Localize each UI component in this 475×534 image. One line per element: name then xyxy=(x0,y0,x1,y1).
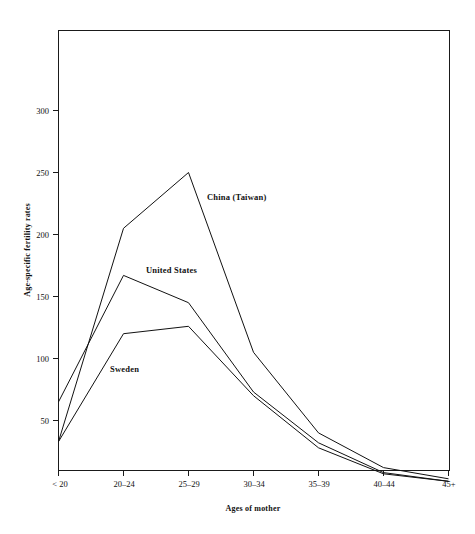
x-tick-label-35-39: 35–39 xyxy=(308,479,329,489)
y-tick-label-200: 200 xyxy=(36,230,49,240)
x-tick-label-lt20: < 20 xyxy=(52,479,67,489)
series-label-united-states: United States xyxy=(146,265,197,275)
fertility-rate-chart: 300 250 200 150 100 50 < 20 20–24 25–29 … xyxy=(0,0,475,534)
y-axis-ticks xyxy=(53,111,59,421)
series-line-united-states xyxy=(59,275,449,481)
y-tick-label-150: 150 xyxy=(36,292,49,302)
series-label-sweden: Sweden xyxy=(110,364,139,374)
series-line-china xyxy=(59,173,449,479)
x-tick-label-25-29: 25–29 xyxy=(178,479,199,489)
x-tick-label-20-24: 20–24 xyxy=(113,479,135,489)
chart-canvas: 300 250 200 150 100 50 < 20 20–24 25–29 … xyxy=(0,0,475,534)
y-axis-title: Age-specific fertility rates xyxy=(23,203,32,297)
y-axis-tick-labels: 300 250 200 150 100 50 xyxy=(36,106,49,426)
series-label-china: China (Taiwan) xyxy=(207,192,266,202)
x-tick-label-40-44: 40–44 xyxy=(373,479,395,489)
x-axis-tick-labels: < 20 20–24 25–29 30–34 35–39 40–44 45+ xyxy=(52,479,456,489)
x-axis-title: Ages of mother xyxy=(226,504,281,513)
y-tick-label-100: 100 xyxy=(36,354,49,364)
y-tick-label-50: 50 xyxy=(41,416,50,426)
y-tick-label-250: 250 xyxy=(36,168,49,178)
series-line-sweden xyxy=(59,326,449,481)
x-tick-label-30-34: 30–34 xyxy=(243,479,265,489)
y-tick-label-300: 300 xyxy=(36,106,49,116)
